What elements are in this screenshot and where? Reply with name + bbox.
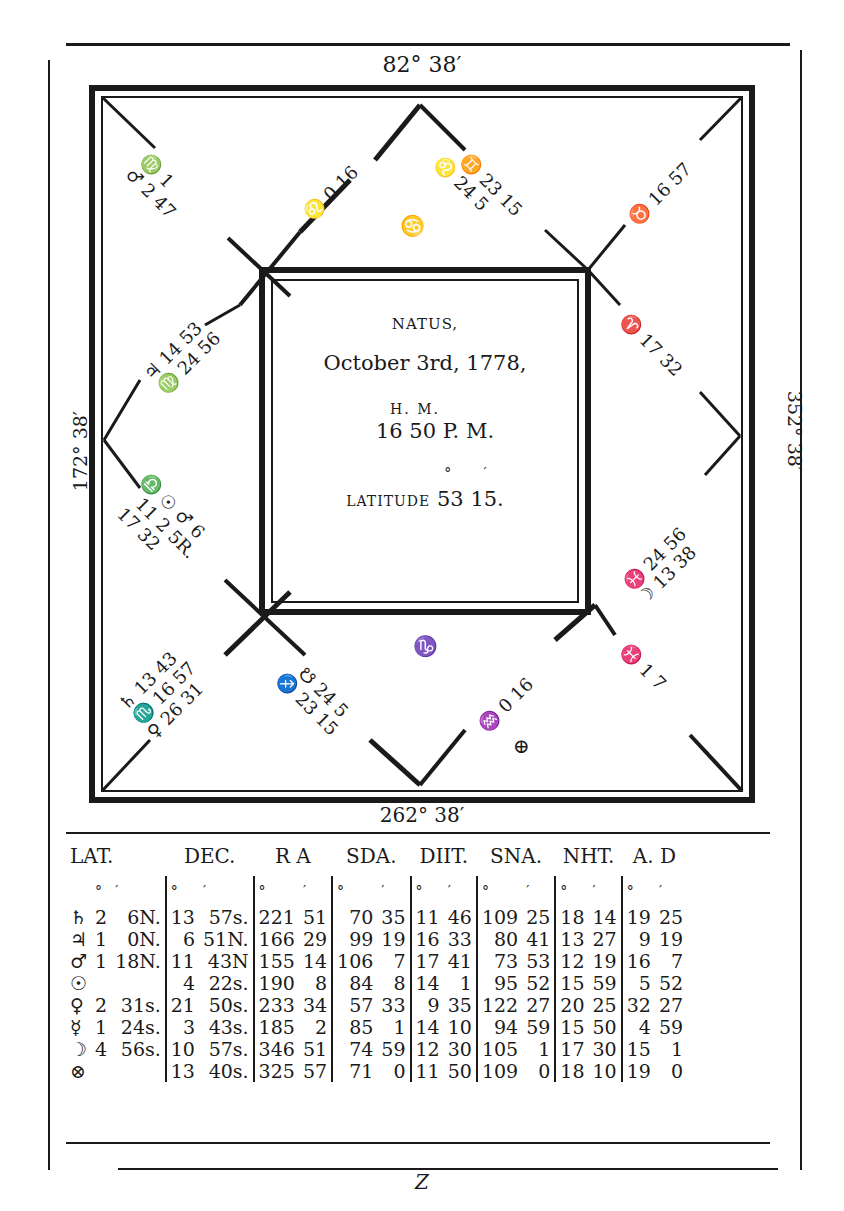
footer-letter: Z [0,1170,844,1194]
sna-deg: 109 [477,906,522,928]
ra-deg: 346 [254,1038,299,1060]
nht-deg: 15 [555,972,588,994]
dec-deg: 10 [166,1038,199,1060]
ra-min: 29 [299,928,332,950]
ra-deg: 190 [254,972,299,994]
diit-min: 35 [444,994,477,1016]
unit-deg: ° [332,876,377,906]
unit-min: ′ [589,876,622,906]
unit-min: ′ [377,876,410,906]
planet-symbol: ♀ [66,994,91,1016]
ra-deg: 233 [254,994,299,1016]
diit-deg: 11 [411,906,444,928]
sda-deg: 57 [332,994,377,1016]
ad-deg: 16 [622,950,655,972]
sna-deg: 109 [477,1060,522,1082]
sna-min: 59 [522,1016,555,1038]
nht-deg: 18 [555,906,588,928]
header-ad: A. D [622,836,687,876]
table-row: ♄26N.1357s.22151703511461092518141925 [66,906,687,928]
unit-deg: ° [555,876,588,906]
table-row: ♂118N.1143N155141067174173531219167 [66,950,687,972]
ad-min: 59 [655,1016,687,1038]
nht-min: 27 [589,928,622,950]
diit-deg: 14 [411,972,444,994]
ra-min: 34 [299,994,332,1016]
ad-min: 19 [655,928,687,950]
sda-min: 0 [377,1060,410,1082]
table-top-rule [66,832,770,834]
time-units: H. M. [255,401,575,417]
header-diit: DIIT. [411,836,477,876]
sda-deg: 84 [332,972,377,994]
diit-deg: 12 [411,1038,444,1060]
planet-symbol: ☉ [66,972,91,994]
dec-deg: 13 [166,906,199,928]
planet-data-table: LAT. DEC. R A SDA. DIIT. SNA. NHT. A. D … [66,836,687,1082]
lat-deg [91,1060,111,1082]
unit-deg: ° [411,876,444,906]
header-sna: SNA. [477,836,555,876]
sda-deg: 106 [332,950,377,972]
ad-min: 0 [655,1060,687,1082]
lat-min: 18N. [111,950,166,972]
sna-deg: 122 [477,994,522,1016]
unit-deg: ° [477,876,522,906]
dec-min: 43N [199,950,254,972]
table-row: ☽456s.1057s.346517459123010511730151 [66,1038,687,1060]
ad-min: 7 [655,950,687,972]
unit-min: ′ [299,876,332,906]
capricorn-sign: ♑ [413,636,438,656]
dec-min: 43s. [199,1016,254,1038]
diit-min: 50 [444,1060,477,1082]
unit-min: ′ [655,876,687,906]
dec-deg: 6 [166,928,199,950]
unit-deg: ° [166,876,199,906]
part-of-fortune-icon: ⊕ [513,736,530,756]
dec-min: 57s. [199,906,254,928]
header-dec: DEC. [166,836,254,876]
unit-min: ′ [522,876,555,906]
ad-deg: 32 [622,994,655,1016]
lat-min: 56s. [111,1038,166,1060]
latitude-label: LATITUDE [346,493,430,509]
diit-min: 10 [444,1016,477,1038]
table-bottom-rule [66,1142,770,1144]
lat-min: 24s. [111,1016,166,1038]
lat-min [111,972,166,994]
natus-title: NATUS, [275,315,575,333]
ra-min: 14 [299,950,332,972]
header-nht: NHT. [555,836,621,876]
ra-deg: 166 [254,928,299,950]
diit-deg: 17 [411,950,444,972]
sna-min: 25 [522,906,555,928]
lat-deg: 1 [91,928,111,950]
nativity-info: NATUS, October 3rd, 1778, H. M. 16 50 P.… [275,285,575,605]
sda-min: 33 [377,994,410,1016]
ad-deg: 15 [622,1038,655,1060]
ra-deg: 221 [254,906,299,928]
birth-date: October 3rd, 1778, [275,351,575,375]
unit-min: ′ [444,876,477,906]
sna-deg: 73 [477,950,522,972]
sda-min: 8 [377,972,410,994]
nht-min: 25 [589,994,622,1016]
sda-min: 35 [377,906,410,928]
unit-min: ′ [199,876,254,906]
ad-deg: 19 [622,906,655,928]
sda-min: 59 [377,1038,410,1060]
planet-symbol: ☿ [66,1016,91,1038]
dec-deg: 11 [166,950,199,972]
sda-deg: 85 [332,1016,377,1038]
ra-min: 8 [299,972,332,994]
lat-deg: 1 [91,1016,111,1038]
nht-min: 19 [589,950,622,972]
dec-min: 22s. [199,972,254,994]
dec-min: 40s. [199,1060,254,1082]
ad-deg: 9 [622,928,655,950]
nht-min: 50 [589,1016,622,1038]
sda-min: 7 [377,950,410,972]
sda-min: 19 [377,928,410,950]
diit-deg: 11 [411,1060,444,1082]
latitude-units: ° ′ [370,465,575,481]
